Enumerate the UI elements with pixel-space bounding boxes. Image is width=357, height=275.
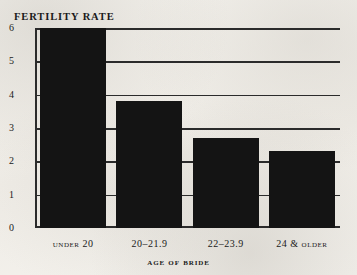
bar [193, 138, 259, 228]
plot-area [35, 28, 340, 228]
y-axis-tick-label: 6 [0, 23, 14, 33]
bar [40, 28, 106, 228]
x-axis-category-label: 20–21.9 [131, 238, 167, 249]
y-axis-tick-label: 3 [0, 123, 14, 133]
y-axis-tick-label: 5 [0, 56, 14, 66]
x-axis-category-label: 24 & older [276, 238, 327, 249]
y-axis-tick-label: 2 [0, 156, 14, 166]
y-axis-line [35, 28, 37, 228]
y-axis-tick-label: 1 [0, 190, 14, 200]
x-axis-category-label: Under 20 [53, 238, 94, 249]
y-axis-tick-label: 4 [0, 90, 14, 100]
fertility-rate-bar-chart: Fertility Rate 0123456 Under 2020–21.922… [0, 0, 357, 275]
bar [269, 151, 335, 228]
y-axis-tick-label: 0 [0, 223, 14, 233]
x-axis-title: Age of Bride [0, 257, 357, 267]
bar [116, 101, 182, 228]
chart-title: Fertility Rate [14, 11, 115, 22]
x-axis-category-label: 22–23.9 [208, 238, 244, 249]
